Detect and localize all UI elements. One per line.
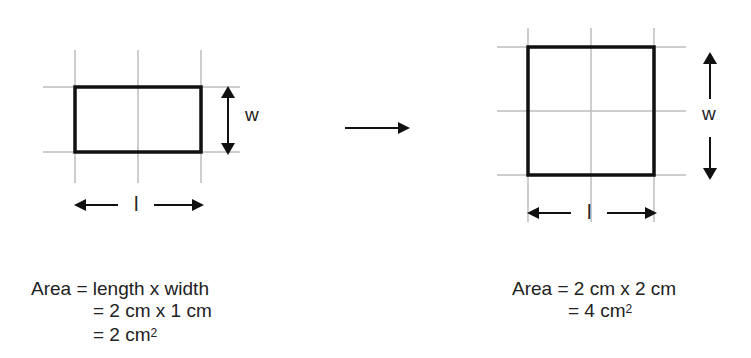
left-length-arrows	[74, 199, 204, 211]
left-width-arrow	[221, 86, 235, 155]
left-area-formula: Area = length x width = 2 cm x 1 cm = 2 …	[31, 278, 212, 344]
right-length-label: l	[587, 201, 591, 223]
left-formula-line-1: Area = length x width	[31, 278, 212, 300]
squared-exponent: 2	[151, 326, 158, 340]
left-formula-line-3: = 2 cm2	[31, 324, 212, 346]
right-formula-result: = 4 cm	[568, 300, 626, 321]
squared-exponent: 2	[626, 302, 633, 316]
right-formula-line-1: Area = 2 cm x 2 cm	[512, 278, 676, 300]
right-length-arrows	[527, 207, 657, 219]
left-formula-line-2: = 2 cm x 1 cm	[31, 300, 212, 322]
right-grid	[497, 28, 686, 222]
right-arrow-icon	[345, 122, 410, 134]
left-width-label: w	[245, 104, 259, 126]
right-area-formula: Area = 2 cm x 2 cm = 4 cm2	[512, 278, 676, 322]
right-formula-line-2: = 4 cm2	[512, 300, 676, 322]
left-grid	[43, 50, 240, 183]
right-width-label: w	[702, 103, 716, 125]
left-length-label: l	[134, 193, 138, 215]
left-formula-result: = 2 cm	[93, 324, 151, 345]
